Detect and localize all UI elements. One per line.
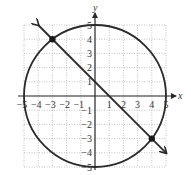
x-tick-label: −3 xyxy=(45,99,56,110)
y-tick-label: 2 xyxy=(87,62,92,73)
x-tick-label: 1 xyxy=(107,99,112,110)
intersection-point xyxy=(149,135,155,141)
x-axis-label: x xyxy=(177,90,183,101)
y-tick-label: 4 xyxy=(87,34,92,45)
y-tick-label: −4 xyxy=(81,147,92,158)
x-tick-label: −2 xyxy=(59,99,70,110)
y-tick-label: −2 xyxy=(81,119,92,130)
intersection-point xyxy=(49,36,55,42)
x-tick-label: 3 xyxy=(135,99,140,110)
line-curve xyxy=(38,25,166,153)
x-tick-label: 4 xyxy=(149,99,154,110)
x-tick-labels: −5−4−3−2−112345 xyxy=(17,99,169,110)
y-axis-label: y xyxy=(92,2,98,13)
graph: x y −5−4−3−2−112345 54321−1−2−3−4−5 xyxy=(0,0,191,175)
y-tick-label: −1 xyxy=(81,105,92,116)
x-tick-label: −4 xyxy=(31,99,42,110)
y-tick-label: 3 xyxy=(87,48,92,59)
y-tick-label: −3 xyxy=(81,133,92,144)
